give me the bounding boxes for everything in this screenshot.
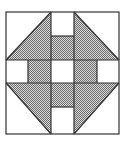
- quilt-block-diagram: [0, 0, 132, 142]
- quilt-background: [6, 12, 119, 134]
- rect-right: [74, 60, 97, 83]
- rect-bottom: [51, 83, 74, 107]
- rect-left: [28, 60, 51, 83]
- rect-top: [51, 36, 74, 60]
